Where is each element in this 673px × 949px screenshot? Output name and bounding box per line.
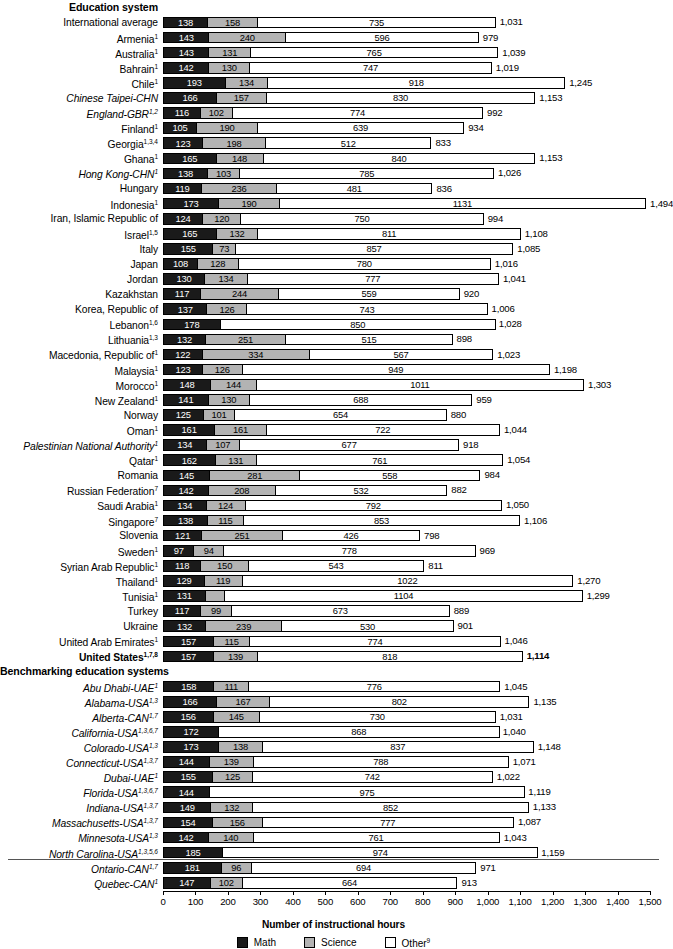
bar-total-label: 1,299 (587, 591, 610, 601)
axis-tick-label: 400 (285, 897, 300, 907)
bar-segment-value: 138 (233, 742, 248, 751)
bar-segment-value: 654 (333, 410, 348, 419)
bar-segment-math: 149 (163, 802, 211, 814)
stacked-bar: 157115774 (163, 636, 503, 648)
legend-item-science[interactable]: Science (304, 937, 357, 948)
bar-segment-value: 125 (225, 772, 240, 781)
bar-segment-other: 949 (242, 364, 550, 376)
stacked-bar: 123198512 (163, 137, 433, 149)
bar-segment-other: 777 (262, 817, 514, 829)
bar-segment-value: 157 (234, 93, 249, 102)
bar-total-label: 1,019 (496, 63, 519, 73)
row-label: Slovenia (0, 530, 163, 541)
bar-segment-science: 111 (213, 681, 249, 693)
bar-segment-value: 130 (221, 395, 236, 404)
bar-segment-science: 132 (216, 228, 259, 240)
bar-segment-value: 99 (211, 606, 221, 615)
row-label-text: Alberta-CAN (92, 713, 149, 724)
axis-tick (650, 891, 651, 895)
axis-tick-label: 0 (160, 897, 165, 907)
bar-segment-science: 102 (210, 877, 243, 889)
section-header-spacer (163, 664, 667, 679)
bar-segment-science: 126 (202, 364, 243, 376)
row-label-text: Hong Kong-CHN (78, 170, 154, 181)
bar-segment-value: 158 (225, 18, 240, 27)
bar-segment-science: 251 (205, 334, 286, 346)
bar-segment-value: 281 (247, 471, 262, 480)
bar-segment-math: 172 (163, 726, 219, 738)
row-label: Korea, Republic of (0, 304, 163, 315)
chart-row: Indonesia117319011311,494 (0, 196, 667, 211)
row-label-footnote: 1 (154, 395, 158, 402)
bar-track: 132239530901 (163, 619, 667, 634)
bar-track: 1421407611,043 (163, 830, 667, 845)
bar-track: 1081287801,016 (163, 257, 667, 272)
bar-track: 1551257421,022 (163, 770, 667, 785)
bar-segment-value: 108 (173, 259, 188, 268)
bar-segment-science: 240 (208, 32, 286, 44)
bar-segment-value: 143 (179, 48, 194, 57)
bar-segment-math: 173 (163, 741, 219, 753)
chart-row: Thailand112911910221,270 (0, 574, 667, 589)
bar-segment-value: 730 (370, 712, 385, 721)
stacked-bar: 149132852 (163, 802, 531, 814)
chart-row: Norway125101654880 (0, 408, 667, 423)
axis-tick-label: 1,000 (476, 897, 499, 907)
bar-total-label: 1,016 (495, 259, 518, 269)
row-label-footnote: 1 (154, 455, 158, 462)
row-label-text: Malaysia (115, 366, 155, 377)
row-label-text: Lebanon (110, 321, 149, 332)
bar-total-label: 1,039 (502, 48, 525, 58)
bar-segment-value: 119 (216, 576, 230, 585)
bar-track: 17319011311,494 (163, 196, 667, 211)
bar-segment-value: 735 (369, 18, 384, 27)
bar-segment-other: 558 (299, 470, 480, 482)
legend-label-science: Science (321, 937, 357, 948)
row-label-text: Japan (130, 259, 158, 270)
bar-segment-value: 743 (359, 305, 374, 314)
bar-segment-value: 161 (233, 425, 248, 434)
bar-segment-value: 137 (178, 305, 193, 314)
row-label-text: Singapore (108, 517, 154, 528)
row-label: Florida-USA1,3,6,7 (0, 785, 163, 799)
bar-segment-value: 190 (241, 199, 256, 208)
stacked-bar: 138103785 (163, 168, 496, 180)
legend-item-math[interactable]: Math (237, 937, 276, 948)
row-label-footnote: 1,3,4 (144, 138, 158, 145)
bar-total-label: 959 (476, 395, 491, 405)
bar-segment-value: 155 (181, 244, 196, 253)
bar-track: 1731388371,148 (163, 740, 667, 755)
bar-segment-math: 165 (163, 153, 217, 165)
legend-item-other[interactable]: Other9 (385, 937, 431, 949)
bar-segment-science: 119 (204, 575, 243, 587)
bar-total-label: 1,046 (505, 636, 528, 646)
bar-segment-value: 239 (236, 622, 251, 631)
bar-segment-value: 161 (182, 425, 197, 434)
stacked-bar: 132251515 (163, 334, 455, 346)
bar-segment-science: 103 (207, 168, 240, 180)
axis-tick (618, 891, 619, 895)
bar-segment-value: 102 (219, 878, 234, 887)
row-label-text: Jordan (127, 274, 158, 285)
stacked-bar: 157139818 (163, 651, 525, 663)
bar-segment-value: 774 (367, 637, 382, 646)
bar-segment-value: 134 (177, 501, 192, 510)
bar-segment-value: 558 (382, 471, 397, 480)
bar-segment-math: 119 (163, 183, 202, 195)
legend-swatch-math (237, 937, 248, 948)
bar-segment-science: 167 (216, 696, 270, 708)
bar-segment-value: 103 (216, 169, 231, 178)
bar-track: 141130688959 (163, 392, 667, 407)
bar-total-label: 971 (480, 863, 495, 873)
bar-segment-science: 73 (212, 243, 236, 255)
row-label-footnote: 1 (154, 168, 158, 175)
bar-segment-value: 792 (366, 501, 381, 510)
bar-segment-math: 122 (163, 349, 203, 361)
row-label: Norway (0, 410, 163, 421)
bar-track: 116102774992 (163, 106, 667, 121)
stacked-bar: 18196694 (163, 862, 478, 874)
row-label: Lithuania1,3 (0, 332, 163, 346)
bar-segment-math: 124 (163, 213, 203, 225)
bar-total-label: 811 (428, 561, 443, 571)
